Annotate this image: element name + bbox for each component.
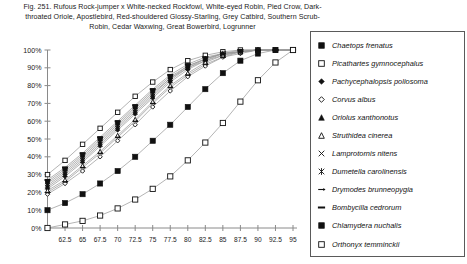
- legend-item[interactable]: Picathartes gymnocephalus: [316, 54, 464, 72]
- series-point: [115, 206, 120, 211]
- legend-item[interactable]: Bombycilla cedrorum: [316, 199, 464, 217]
- legend-item[interactable]: Pachycephalopsis poliosoma: [316, 72, 464, 90]
- series-point: [186, 58, 190, 62]
- y-axis-tick-label: 20%: [27, 189, 42, 197]
- x-axis-tick-label: 95: [289, 236, 297, 243]
- legend-item-label: Chlamydera nuchalis: [332, 221, 401, 230]
- series-point: [168, 67, 172, 71]
- x-axis-tick-label: 92.5: [269, 236, 282, 243]
- series-point: [255, 78, 260, 83]
- y-axis-tick-label: 10%: [27, 207, 42, 215]
- series-point: [115, 110, 119, 114]
- caption-line-1: Fig. 251. Rufous Rock-jumper x White-nec…: [0, 2, 345, 12]
- series-point: [98, 181, 103, 186]
- series-point: [168, 122, 173, 127]
- x-axis-tick-label: 90: [254, 236, 262, 243]
- caption-line-3: Robin, Cedar Waxwing, Great Bowerbird, L…: [0, 22, 345, 32]
- series-point: [185, 158, 190, 163]
- series-point: [273, 60, 278, 65]
- open-square-icon: [316, 58, 327, 69]
- x-axis-tick-label: 65: [79, 236, 87, 243]
- series-point: [151, 80, 155, 84]
- legend-item[interactable]: Lamprotornis nitens: [316, 145, 464, 163]
- legend-item-label: Drymodes brunneopygia: [332, 185, 413, 194]
- x-axis-tick-label: 85: [219, 236, 227, 243]
- series-point: [80, 218, 85, 223]
- series-point: [238, 58, 243, 63]
- legend-item[interactable]: Struthidea cinerea: [316, 126, 464, 144]
- legend-item-label: Struthidea cinerea: [332, 131, 392, 140]
- legend-item-label: Orthonyx temminckii: [332, 240, 399, 249]
- legend-item[interactable]: Oriolus xanthonotus: [316, 108, 464, 126]
- legend-item[interactable]: Chaetops frenatus: [316, 36, 464, 54]
- legend-item-label: Dumetella carolinensis: [332, 167, 407, 176]
- legend-item[interactable]: Drymodes brunneopygia: [316, 181, 464, 199]
- caption-line-2: throated Oriole, Apostlebird, Red-should…: [0, 12, 345, 22]
- series-point: [62, 200, 67, 205]
- series-point: [255, 51, 260, 56]
- series-point: [133, 154, 138, 159]
- y-axis-tick-label: 100%: [23, 47, 42, 55]
- series-point: [62, 222, 67, 227]
- y-axis-tick-label: 30%: [27, 171, 42, 179]
- figure-root: Fig. 251. Rufous Rock-jumper x White-nec…: [0, 0, 467, 264]
- legend-item-label: Pachycephalopsis poliosoma: [332, 77, 428, 86]
- series-point: [98, 126, 102, 130]
- legend-item-label: Chaetops frenatus: [332, 41, 393, 50]
- y-axis-tick-label: 50%: [27, 136, 42, 144]
- y-axis-tick-label: 70%: [27, 100, 42, 108]
- dash-arrow-icon: [316, 184, 327, 195]
- filled-square-icon: [316, 220, 327, 231]
- series-point: [63, 158, 67, 162]
- series-point: [98, 213, 103, 218]
- line-chart-svg: 0%10%20%30%40%50%60%70%80%90%100%62.5656…: [0, 42, 312, 264]
- open-square-icon: [316, 239, 327, 250]
- thick-dash-icon: [316, 202, 327, 213]
- series-point: [150, 138, 155, 143]
- series-point: [203, 140, 208, 145]
- x-axis-tick-label: 87.5: [234, 236, 247, 243]
- legend-item-label: Bombycilla cedrorum: [332, 203, 401, 212]
- series-point: [133, 94, 137, 98]
- chart-plot-area: 0%10%20%30%40%50%60%70%80%90%100%62.5656…: [0, 42, 312, 264]
- x-axis-tick-label: 70: [114, 236, 122, 243]
- y-axis-tick-label: 80%: [27, 82, 42, 90]
- legend-item-label: Lamprotornis nitens: [332, 149, 397, 158]
- open-diamond-icon: [316, 94, 327, 105]
- x-axis-tick-label: 80: [184, 236, 192, 243]
- open-triangle-icon: [316, 130, 327, 141]
- series-point: [273, 47, 278, 52]
- x-axis-tick-label: 77.5: [164, 236, 177, 243]
- series-point: [45, 208, 50, 213]
- legend-item[interactable]: Chlamydera nuchalis: [316, 217, 464, 235]
- legend-item[interactable]: Dumetella carolinensis: [316, 163, 464, 181]
- x-axis-tick-label: 72.5: [129, 236, 142, 243]
- series-point: [185, 104, 190, 109]
- series-point: [220, 71, 225, 76]
- series-point: [238, 99, 243, 104]
- figure-caption: Fig. 251. Rufous Rock-jumper x White-nec…: [0, 2, 345, 33]
- y-axis-tick-label: 90%: [27, 64, 42, 72]
- asterisk-icon: [316, 166, 327, 177]
- legend-item-label: Picathartes gymnocephalus: [332, 59, 423, 68]
- legend-item[interactable]: Orthonyx temminckii: [316, 235, 464, 253]
- series-point: [220, 120, 225, 125]
- y-axis-tick-label: 0%: [31, 225, 42, 233]
- series-markers: [45, 47, 297, 230]
- x-axis-tick-label: 75: [149, 236, 157, 243]
- filled-diamond-icon: [316, 76, 327, 87]
- filled-triangle-icon: [316, 112, 327, 123]
- filled-square-icon: [316, 40, 327, 51]
- y-axis-tick-label: 40%: [27, 153, 42, 161]
- series-point: [80, 142, 84, 146]
- series-point: [115, 168, 120, 173]
- series-point: [150, 186, 155, 191]
- series-point: [80, 192, 85, 197]
- x-axis-tick-label: 62.5: [59, 236, 72, 243]
- legend-item[interactable]: Corvus albus: [316, 90, 464, 108]
- series-point: [45, 172, 49, 176]
- x-axis-tick-label: 67.5: [94, 236, 107, 243]
- cross-x-icon: [316, 148, 327, 159]
- series-point: [203, 87, 208, 92]
- legend-item-label: Oriolus xanthonotus: [332, 113, 398, 122]
